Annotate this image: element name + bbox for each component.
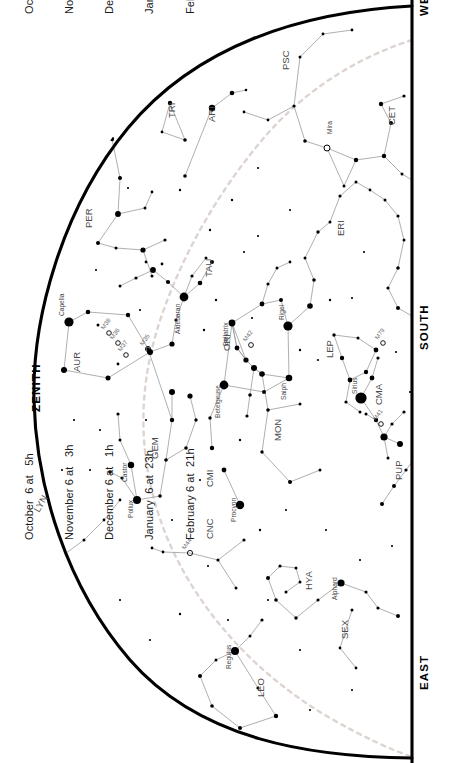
dso-label-m41: M41 [371, 407, 384, 421]
constellation-label-per: PER [83, 208, 94, 228]
direction-label-south: SOUTH [418, 304, 430, 350]
star-label-mira: Mira [326, 121, 333, 134]
date-row: January 6 at 23h [143, 445, 156, 540]
star-label-regulus: Regulus [225, 644, 233, 669]
date-row: October 21 at 4h [23, 0, 36, 14]
dso-label-m42: M42 [241, 328, 254, 342]
constellation-label-cet: CET [386, 106, 397, 125]
stars [61, 29, 412, 742]
date-row: November 21 at 2h [63, 0, 76, 14]
star-label-procyon: Procyon [230, 497, 238, 522]
constellation-label-tri: TRI [166, 103, 177, 118]
star-label-rigel: Rigel [278, 304, 286, 320]
direction-label-west: WEST [418, 0, 430, 16]
date-row: February 21 at 20h [184, 0, 197, 14]
dso-label-m79: M79 [373, 326, 386, 340]
constellation-label-psc: PSC [280, 50, 291, 70]
date-row: October 6 at 5h [23, 445, 36, 540]
star-label-bellatrix: Bellatrix [222, 322, 229, 346]
date-row: February 6 at 21h [184, 445, 197, 540]
star-label-capella: Capella [58, 293, 66, 316]
constellation-label-ari: ARI [206, 106, 217, 122]
constellation-lines [62, 30, 412, 728]
constellation-label-tau: TAU [203, 259, 214, 277]
constellation-label-hya: HYA [303, 571, 314, 590]
constellation-label-lep: LEP [324, 340, 335, 358]
date-row: November 6 at 3h [63, 445, 76, 540]
constellation-label-leo: LEO [255, 678, 266, 697]
sky-map: PSC TRI ARI CET PER ERI TAU AUR ORI LEP … [0, 0, 454, 763]
date-row: December 6 at 1h [103, 445, 116, 540]
date-block-bottom: October 6 at 5h November 6 at 3h Decembe… [0, 445, 224, 540]
star-label-betelgeuse: Betelgeuse [214, 385, 222, 418]
star-label-aldebaran: Aldebaran [174, 304, 181, 334]
constellation-label-aur: AUR [71, 352, 82, 372]
constellation-label-sex: SEX [339, 619, 350, 639]
star-chart: PSC TRI ARI CET PER ERI TAU AUR ORI LEP … [0, 0, 454, 763]
date-block-top: October 21 at 4h November 21 at 2h Decem… [0, 0, 224, 14]
star-label-alphard: Alphard [331, 577, 339, 600]
star-label-saiph: Saiph [280, 383, 288, 400]
dso-label-m35: M35 [138, 332, 151, 346]
constellation-label-cma: CMA [373, 383, 384, 405]
date-row: January 21 at 22h [143, 0, 156, 14]
constellation-label-mon: MON [272, 419, 283, 441]
constellation-label-pup: PUP [393, 460, 404, 480]
constellation-label-eri: ERI [335, 220, 346, 236]
ecliptic-line [143, 40, 412, 757]
dso-label-m36: M36 [108, 326, 121, 340]
star-label-sirius: Sirius [351, 377, 358, 394]
direction-label-zenith: ZENITH [30, 363, 42, 412]
date-row: December 21 at 0h [103, 0, 116, 14]
dso-label-m38: M38 [99, 316, 112, 330]
direction-label-east: EAST [418, 655, 430, 690]
